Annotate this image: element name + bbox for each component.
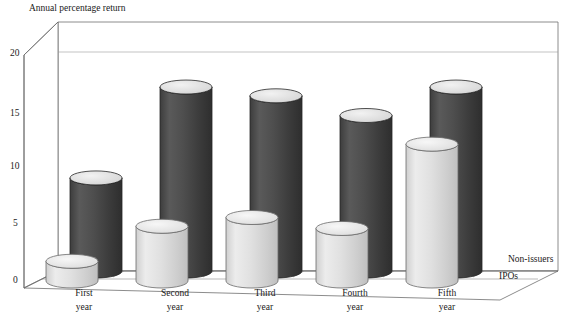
cat-label-1-line2: year [76, 302, 93, 312]
cat-label-3-line1: Third [254, 288, 275, 298]
cat-label-2-line2: year [167, 302, 184, 312]
cat-label-5-line2: year [439, 302, 456, 312]
cylinder-body [406, 144, 458, 288]
bar-ipos-2 [136, 219, 188, 288]
cylinder-top [316, 221, 368, 235]
cylinder-body [226, 217, 278, 288]
cat-label-5-line1: Fifth [438, 288, 457, 298]
cylinder-top [160, 80, 212, 94]
y-tick-0: 0 [13, 275, 18, 285]
cat-label-2-line1: Second [161, 288, 189, 298]
legend-entry-non-issuers: Non-issuers [508, 254, 554, 264]
cylinder-top [226, 210, 278, 224]
y-tick-5: 5 [13, 218, 18, 228]
cylinder-top [70, 171, 122, 185]
cylinder-body [316, 228, 368, 288]
cylinder-top [430, 80, 482, 94]
bar-chart-3d: Annual percentage return 20 15 10 5 0 Fi… [0, 0, 570, 315]
cat-label-4-line1: Fourth [342, 288, 368, 298]
y-tick-20: 20 [10, 48, 20, 58]
cat-label-1-line1: First [75, 288, 93, 298]
bar-ipos-1 [46, 254, 98, 288]
cylinder-top [136, 219, 188, 233]
bar-ipos-5 [406, 137, 458, 288]
cat-label-3-line2: year [257, 302, 274, 312]
cat-label-4-line2: year [347, 302, 364, 312]
y-tick-10: 10 [10, 161, 20, 171]
bar-ipos-4 [316, 221, 368, 288]
chart-container: Annual percentage return 20 15 10 5 0 Fi… [0, 0, 570, 315]
cylinder-body [136, 226, 188, 288]
cylinder-top [340, 109, 392, 123]
cylinder-top [46, 254, 98, 268]
y-tick-15: 15 [10, 108, 20, 118]
y-axis-title: Annual percentage return [29, 3, 126, 13]
cylinder-top [250, 89, 302, 103]
legend-entry-ipos: IPOs [499, 271, 518, 281]
cylinder-top [406, 137, 458, 151]
y-tick-labels: 20 15 10 5 0 [10, 48, 20, 285]
bar-ipos-3 [226, 210, 278, 288]
